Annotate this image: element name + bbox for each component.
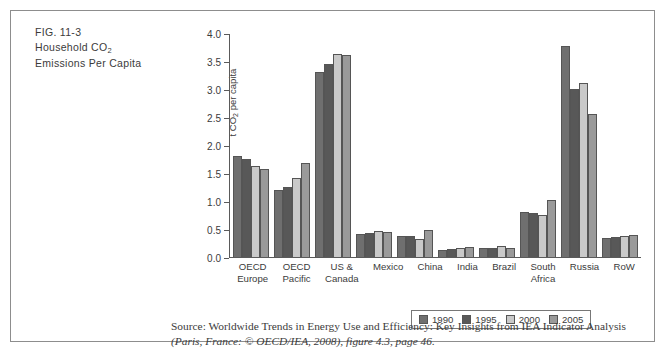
- x-axis-tick-label-line: China: [418, 261, 443, 273]
- bar-groups: [230, 34, 641, 257]
- bar[interactable]: [561, 46, 570, 257]
- y-axis-tick-label: 3.5: [207, 57, 221, 68]
- bar-group: [479, 34, 515, 257]
- x-axis-tick-label: Russia: [570, 261, 599, 295]
- bar[interactable]: [233, 156, 242, 257]
- bar[interactable]: [397, 236, 406, 257]
- chart-plot-area: t CO2 per capita 0.00.51.01.52.02.53.03.…: [189, 29, 649, 279]
- bar[interactable]: [251, 166, 260, 257]
- y-axis-tick-mark: [224, 258, 229, 259]
- bar[interactable]: [283, 187, 292, 257]
- y-axis-tick-label: 2.5: [207, 113, 221, 124]
- bar[interactable]: [324, 64, 333, 257]
- bar[interactable]: [315, 72, 324, 257]
- y-axis-tick-label: 1.0: [207, 197, 221, 208]
- y-axis-tick-label: 0.5: [207, 225, 221, 236]
- bar[interactable]: [520, 212, 529, 257]
- y-axis-tick-label: 3.0: [207, 85, 221, 96]
- x-axis-tick-label: OECDEurope: [237, 261, 268, 295]
- x-axis-tick-label: SouthAfrica: [530, 261, 555, 295]
- bar[interactable]: [456, 248, 465, 257]
- subscript-2: 2: [107, 46, 111, 55]
- x-axis-tick-labels: OECDEuropeOECDPacificUS &CanadaMexicoChi…: [230, 261, 642, 295]
- x-axis-tick-label-line: Russia: [570, 261, 599, 273]
- bar[interactable]: [506, 248, 515, 257]
- x-axis-tick-label-line: US &: [325, 261, 359, 273]
- x-axis-tick-label: OECDPacific: [282, 261, 310, 295]
- bar[interactable]: [588, 114, 597, 257]
- y-axis-tick-mark: [224, 202, 229, 203]
- figure-frame: FIG. 11-3 Household CO2 Emissions Per Ca…: [10, 10, 655, 342]
- x-axis-tick-label: RoW: [613, 261, 634, 295]
- bar[interactable]: [570, 89, 579, 257]
- bar[interactable]: [292, 178, 301, 257]
- bar-group: [397, 34, 433, 257]
- x-axis-tick-label-line: RoW: [613, 261, 634, 273]
- bar-group: [602, 34, 638, 257]
- bar[interactable]: [547, 200, 556, 257]
- figure-title-line-2: Emissions Per Capita: [35, 56, 185, 71]
- bar[interactable]: [629, 235, 638, 257]
- bar[interactable]: [415, 239, 424, 257]
- bar[interactable]: [447, 249, 456, 257]
- x-axis-tick-label-line: OECD: [282, 261, 310, 273]
- bar[interactable]: [620, 236, 629, 257]
- y-axis-tick-mark: [224, 90, 229, 91]
- figure-page: FIG. 11-3 Household CO2 Emissions Per Ca…: [0, 0, 671, 363]
- bar[interactable]: [438, 250, 447, 257]
- x-axis-tick-label-line: Africa: [530, 273, 555, 285]
- bar-group: [233, 34, 269, 257]
- bar[interactable]: [479, 248, 488, 257]
- bar[interactable]: [242, 159, 251, 257]
- bar[interactable]: [365, 233, 374, 257]
- y-axis-tick-labels: 0.00.51.01.52.02.53.03.54.0: [195, 34, 221, 258]
- source-note: Source: Worldwide Trends in Energy Use a…: [171, 319, 653, 348]
- bar[interactable]: [529, 213, 538, 257]
- y-axis-tick-mark: [224, 230, 229, 231]
- figure-caption: FIG. 11-3 Household CO2 Emissions Per Ca…: [35, 25, 185, 71]
- y-axis-tick-label: 1.5: [207, 169, 221, 180]
- bar[interactable]: [579, 83, 588, 257]
- bar[interactable]: [333, 54, 342, 257]
- bar[interactable]: [538, 215, 547, 257]
- x-axis-tick-label: Mexico: [373, 261, 403, 295]
- y-axis-tick-label: 4.0: [207, 29, 221, 40]
- x-axis-tick-label: Brazil: [492, 261, 516, 295]
- bar[interactable]: [301, 163, 310, 257]
- source-line-1: Source: Worldwide Trends in Energy Use a…: [171, 319, 653, 334]
- y-axis-tick-mark: [224, 118, 229, 119]
- bar[interactable]: [406, 236, 415, 257]
- y-axis-tick-mark: [224, 34, 229, 35]
- x-axis-tick-label: India: [457, 261, 478, 295]
- bar[interactable]: [497, 246, 506, 257]
- bar-group: [315, 34, 351, 257]
- x-axis-tick-label-line: South: [530, 261, 555, 273]
- bar[interactable]: [274, 190, 283, 257]
- bar[interactable]: [611, 237, 620, 257]
- bar-group: [520, 34, 556, 257]
- bar[interactable]: [488, 248, 497, 257]
- x-axis-tick-label-line: India: [457, 261, 478, 273]
- y-axis-tick-label: 0.0: [207, 253, 221, 264]
- bar[interactable]: [374, 231, 383, 257]
- y-axis-tick-label: 2.0: [207, 141, 221, 152]
- figure-number: FIG. 11-3: [35, 25, 185, 40]
- bar[interactable]: [465, 247, 474, 257]
- bar-group: [274, 34, 310, 257]
- bar[interactable]: [260, 169, 269, 257]
- bar[interactable]: [342, 55, 351, 257]
- bar[interactable]: [424, 230, 433, 257]
- x-axis-tick-label-line: Pacific: [282, 273, 310, 285]
- source-line-2: (Paris, France: © OECD/IEA, 2008), figur…: [171, 334, 653, 349]
- figure-title-line-1: Household CO2: [35, 40, 185, 56]
- bar[interactable]: [356, 234, 365, 257]
- figure-title-text: Household CO: [35, 41, 107, 53]
- x-axis-tick-label-line: OECD: [237, 261, 268, 273]
- y-axis-tick-mark: [224, 146, 229, 147]
- bar[interactable]: [602, 238, 611, 258]
- x-axis-tick-label: US &Canada: [325, 261, 359, 295]
- y-axis-tick-mark: [224, 62, 229, 63]
- x-axis-tick-label-line: Mexico: [373, 261, 403, 273]
- bar[interactable]: [383, 232, 392, 257]
- y-axis-tick-mark: [224, 174, 229, 175]
